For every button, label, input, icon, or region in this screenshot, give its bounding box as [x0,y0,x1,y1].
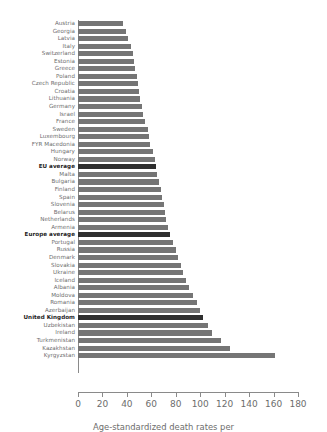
bar-cell [78,314,327,322]
bar-cell [78,148,327,156]
bar-cell [78,224,327,232]
category-label: Iceland [0,277,78,285]
x-tick-label: 60 [146,399,157,409]
bar-cell [78,73,327,81]
bar [78,270,183,275]
bar-cell [78,88,327,96]
bar-row: EU average [0,163,327,171]
x-tick-label: 160 [265,399,282,409]
bar-row: Switzerland [0,50,327,58]
category-label: Italy [0,43,78,51]
bar-row: Moldova [0,292,327,300]
bar-cell [78,35,327,43]
bar [78,112,143,117]
bar-row: Azerbaijan [0,307,327,315]
x-tick [176,392,177,397]
x-tick [102,392,103,397]
bar-cell [78,126,327,134]
bar [78,142,150,147]
bar [78,232,170,237]
bar [78,285,189,290]
category-label: Hungary [0,148,78,156]
bar-row: Lithuania [0,95,327,103]
bar-row: Norway [0,156,327,164]
bar-row: Slovenia [0,201,327,209]
bar [78,346,230,351]
category-label: Europe average [0,231,78,239]
bar [78,308,200,313]
bar [78,278,186,283]
bar-row: Luxembourg [0,133,327,141]
bar-cell [78,156,327,164]
bar-row: Slovakia [0,262,327,270]
category-label: Kyrgyzstan [0,352,78,360]
category-label: Ireland [0,329,78,337]
category-label: Estonia [0,58,78,66]
bar [78,255,178,260]
bar-cell [78,352,327,360]
bar-row: FYR Macedonia [0,141,327,149]
category-label: Spain [0,194,78,202]
category-label: Sweden [0,126,78,134]
category-label: Finland [0,186,78,194]
category-label: Armenia [0,224,78,232]
bar-cell [78,50,327,58]
bar-row: Albania [0,284,327,292]
category-label: Malta [0,171,78,179]
bar [78,353,275,358]
bar-row: France [0,118,327,126]
bar-cell [78,194,327,202]
bar-cell [78,111,327,119]
bar [78,225,168,230]
bar-row: Poland [0,73,327,81]
bar-cell [78,322,327,330]
bar [78,338,221,343]
category-label: Norway [0,156,78,164]
bar-row: Uzbekistan [0,322,327,330]
bar-row: Romania [0,299,327,307]
bar-row: Bulgaria [0,178,327,186]
bar-cell [78,178,327,186]
bar [78,134,149,139]
x-tick [249,392,250,397]
x-axis-ticks [0,392,327,398]
bar-cell [78,277,327,285]
bar-row: Ukraine [0,269,327,277]
bar-cell [78,299,327,307]
bar [78,44,131,49]
bar-cell [78,337,327,345]
plot-area: AustriaGeorgiaLatviaItalySwitzerlandEsto… [0,20,327,372]
category-label: Latvia [0,35,78,43]
bar-row: Europe average [0,231,327,239]
category-label: Israel [0,111,78,119]
bar-row: Spain [0,194,327,202]
category-label: Bulgaria [0,178,78,186]
category-label: Turkmenistan [0,337,78,345]
bar-cell [78,28,327,36]
bar-cell [78,216,327,224]
bar-row: Belarus [0,209,327,217]
bar-row: Germany [0,103,327,111]
bar [78,172,157,177]
bar-cell [78,43,327,51]
bar-cell [78,118,327,126]
category-label: France [0,118,78,126]
x-axis-tick-labels: 020406080100120140160180 [0,399,327,413]
bar [78,202,164,207]
bar [78,315,203,320]
bar [78,149,153,154]
bar-cell [78,262,327,270]
bar-cell [78,239,327,247]
bar-row: United Kingdom [0,314,327,322]
bar [78,74,137,79]
bar-cell [78,307,327,315]
bar-cell [78,345,327,353]
bar-row: Sweden [0,126,327,134]
category-label: Azerbaijan [0,307,78,315]
category-label: Germany [0,103,78,111]
x-tick-label: 140 [241,399,258,409]
bar-row: Armenia [0,224,327,232]
bar-row: Denmark [0,254,327,262]
bar [78,240,173,245]
category-label: Ukraine [0,269,78,277]
